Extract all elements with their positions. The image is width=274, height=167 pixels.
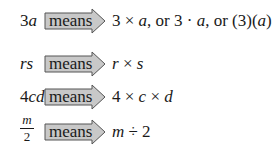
fraction-lhs: m2	[20, 113, 34, 144]
expression-lhs: 3a	[20, 10, 37, 32]
variable: rs	[20, 54, 33, 73]
expression-row-3a: 3a means 3 × a, or 3 · a, or (3)(a)	[0, 8, 274, 34]
fraction-numerator: m	[20, 113, 34, 129]
means-label: means	[49, 122, 92, 142]
means-arrow: means	[44, 51, 106, 77]
expression-rhs: m ÷ 2	[112, 121, 151, 143]
fraction-denominator: 2	[20, 129, 34, 144]
variable: cd	[29, 87, 45, 106]
means-arrow: means	[44, 119, 106, 145]
means-label: means	[49, 11, 92, 31]
expression-row-4cd: 4cd means 4 × c × d	[0, 84, 274, 110]
expression-lhs: 4cd	[20, 86, 45, 108]
means-arrow: means	[44, 84, 106, 110]
expression-row-m-over-2: m2 means m ÷ 2	[0, 119, 274, 145]
coefficient: 4	[20, 87, 29, 106]
means-label: means	[49, 87, 92, 107]
expression-rhs: 4 × c × d	[112, 86, 173, 108]
expression-rhs: 3 × a, or 3 · a, or (3)(a)	[112, 10, 272, 32]
means-label: means	[49, 54, 92, 74]
variable: a	[29, 11, 38, 30]
expression-row-rs: rs means r × s	[0, 51, 274, 77]
coefficient: 3	[20, 11, 29, 30]
means-arrow: means	[44, 8, 106, 34]
expression-rhs: r × s	[112, 53, 143, 75]
expression-lhs: rs	[20, 53, 33, 75]
